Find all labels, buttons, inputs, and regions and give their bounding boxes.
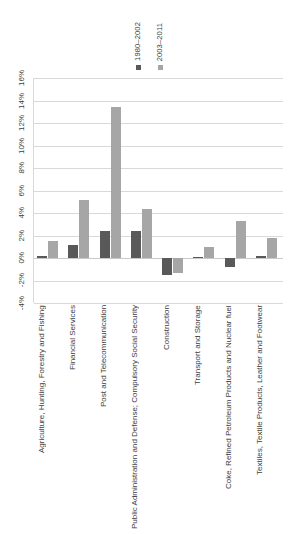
bar-group (34, 78, 65, 303)
legend-label: 2003–2011 (156, 23, 164, 61)
bar (79, 200, 89, 259)
y-axis-tick: 8% (14, 162, 30, 174)
x-axis-label-text: Financial Services (67, 305, 78, 533)
bar (256, 256, 266, 258)
x-axis-category-label: Post and Telecommunication (98, 305, 124, 533)
bar (131, 231, 141, 258)
x-axis-label-text: Public Administration and Defense; Compu… (129, 305, 140, 533)
y-axis-tick-label: 4% (18, 207, 26, 219)
y-axis-tick: 4% (14, 207, 30, 219)
y-axis-tick-label: 10% (18, 138, 26, 154)
y-axis-tick: 10% (14, 140, 30, 152)
bar (37, 256, 47, 258)
y-axis-tick-label: 0% (18, 252, 26, 264)
y-axis-tick-label: 14% (18, 93, 26, 109)
bar (68, 245, 78, 259)
y-axis-tick: 6% (14, 185, 30, 197)
bar-group (97, 78, 128, 303)
bar (111, 107, 121, 258)
bar (100, 231, 110, 258)
bar (225, 258, 235, 267)
y-axis-tick: -2% (14, 275, 30, 287)
bar-group (222, 78, 253, 303)
bar-group (190, 78, 221, 303)
y-axis-tick-label: 16% (18, 70, 26, 86)
bar-group (159, 78, 190, 303)
plot-area-wrapper (33, 78, 283, 303)
bar (142, 209, 152, 259)
plot-area (33, 78, 283, 303)
x-axis-category-label: Agriculture, Hunting, Forestry and Fishi… (36, 305, 62, 533)
y-axis-tick: 12% (14, 117, 30, 129)
legend-item-1980-2002: 1980–2002 (130, 4, 146, 70)
y-axis-tick-label: 6% (18, 185, 26, 197)
x-axis-label-text: Construction (161, 305, 172, 533)
gridline (34, 303, 283, 304)
legend-item-2003-2011: 2003–2011 (152, 4, 168, 70)
y-axis-tick-label: 2% (18, 230, 26, 242)
bar (173, 258, 183, 273)
x-axis-category-label: Coke, Refined Petroleum Products and Nuc… (223, 305, 249, 533)
bar (162, 258, 172, 275)
y-axis-tick-label: -4% (18, 296, 26, 310)
x-axis-category-label: Transport and Storage (192, 305, 218, 533)
chart-legend: 1980–2002 2003–2011 (128, 4, 186, 70)
x-axis-category-label: Financial Services (67, 305, 93, 533)
bar-group (253, 78, 284, 303)
bar (193, 257, 203, 258)
x-axis-category-label: Construction (161, 305, 187, 533)
bar (204, 247, 214, 258)
legend-label: 1980–2002 (134, 22, 142, 61)
legend-swatch (158, 65, 163, 70)
x-axis-label-text: Transport and Storage (192, 305, 203, 533)
x-axis-category-labels: Agriculture, Hunting, Forestry and Fishi… (33, 305, 283, 533)
y-axis-tick-label: 8% (18, 162, 26, 174)
y-axis-tick: 2% (14, 230, 30, 242)
bar-group (128, 78, 159, 303)
bar (267, 238, 277, 258)
bar (236, 221, 246, 258)
y-axis-tick: 14% (14, 95, 30, 107)
x-axis-label-text: Textiles, Textile Products, Leather and … (254, 305, 265, 533)
legend-swatch (136, 65, 141, 70)
bar-chart: 1980–2002 2003–2011 16%14%12%10%8%6%4%2%… (0, 0, 288, 534)
y-axis-tick-label: 12% (18, 115, 26, 131)
x-axis-category-label: Public Administration and Defense; Compu… (129, 305, 155, 533)
x-axis-label-text: Post and Telecommunication (98, 305, 109, 533)
x-axis-label-text: Coke, Refined Petroleum Products and Nuc… (223, 305, 234, 533)
y-axis-tick: 0% (14, 252, 30, 264)
y-axis-tick: 16% (14, 72, 30, 84)
bar (48, 241, 58, 258)
y-axis-tick-label: -2% (18, 273, 26, 287)
x-axis-label-text: Agriculture, Hunting, Forestry and Fishi… (36, 305, 47, 533)
x-axis-category-label: Textiles, Textile Products, Leather and … (254, 305, 280, 533)
y-axis-tick: -4% (14, 297, 30, 309)
bar-group (65, 78, 96, 303)
y-axis-tick-labels: 16%14%12%10%8%6%4%2%0%-2%-4% (14, 78, 30, 303)
